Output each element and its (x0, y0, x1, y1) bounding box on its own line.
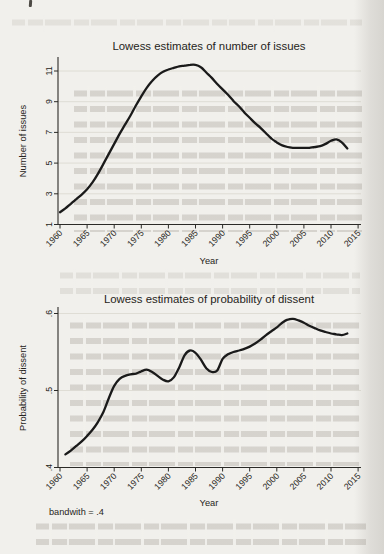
x-axis-title: Year (200, 498, 219, 508)
x-tick-label: 1975 (125, 228, 146, 249)
y-tick-label: 1 (44, 222, 54, 227)
x-tick-label: 1975 (125, 471, 146, 492)
y-axis-title: Number of issues (18, 104, 28, 177)
x-tick-label: 2000 (260, 228, 281, 249)
x-tick-label: 2015 (342, 471, 363, 492)
x-tick-label: 1995 (233, 471, 254, 492)
x-tick-label: 1970 (98, 228, 119, 249)
x-tick-label: 2010 (315, 471, 336, 492)
y-tick-label: 9 (44, 99, 54, 104)
x-tick-label: 1965 (71, 471, 92, 492)
lowess-curve (60, 65, 347, 213)
page-artifact (29, 0, 32, 7)
x-tick-label: 1980 (152, 228, 173, 249)
bandwidth-note: bandwith = .4 (49, 507, 104, 517)
y-tick-label: .4 (44, 464, 54, 471)
x-tick-label: 2010 (315, 228, 336, 249)
y-tick-label: .5 (44, 387, 54, 394)
x-tick-label: 1970 (98, 471, 119, 492)
y-tick-label: 3 (44, 191, 54, 196)
x-tick-label: 1995 (233, 228, 254, 249)
x-axis-title: Year (200, 256, 219, 266)
x-tick-label: 1985 (179, 228, 200, 249)
x-tick-label: 2005 (288, 471, 309, 492)
x-tick-label: 1965 (71, 228, 92, 249)
x-tick-label: 1990 (206, 471, 227, 492)
lowess-curve (65, 319, 347, 455)
x-tick-label: 2015 (342, 228, 363, 249)
x-tick-label: 1960 (44, 228, 65, 249)
x-tick-label: 1960 (44, 471, 65, 492)
chart-title: Lowess estimates of probability of disse… (104, 293, 315, 305)
x-tick-label: 1990 (206, 228, 227, 249)
chart-title: Lowess estimates of number of issues (112, 40, 305, 52)
y-tick-label: 7 (44, 130, 54, 135)
x-tick-label: 1980 (152, 471, 173, 492)
scanned-page: Lowess estimates of number of issues Num… (0, 0, 384, 554)
y-tick-label: 5 (44, 161, 54, 166)
y-tick-label: .6 (44, 310, 54, 317)
figure: Lowess estimates of number of issues Num… (0, 0, 384, 554)
y-axis-title: Probability of dissent (18, 345, 28, 431)
x-tick-label: 2000 (260, 471, 281, 492)
x-tick-label: 2005 (288, 228, 309, 249)
x-tick-label: 1985 (179, 471, 200, 492)
y-tick-label: 11 (44, 66, 54, 75)
dissent-chart: Lowess estimates of probability of disse… (18, 293, 363, 517)
issues-chart: Lowess estimates of number of issues Num… (18, 40, 363, 266)
